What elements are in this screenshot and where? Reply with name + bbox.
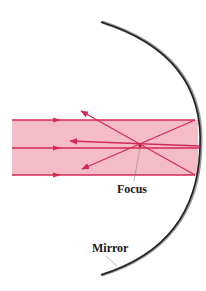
mirror-label: Mirror [92, 241, 129, 255]
mirror-leader-line [106, 256, 117, 266]
concave-mirror-diagram: Focus Mirror [0, 0, 206, 291]
focus-label: Focus [117, 182, 147, 196]
focus-point [138, 144, 141, 147]
